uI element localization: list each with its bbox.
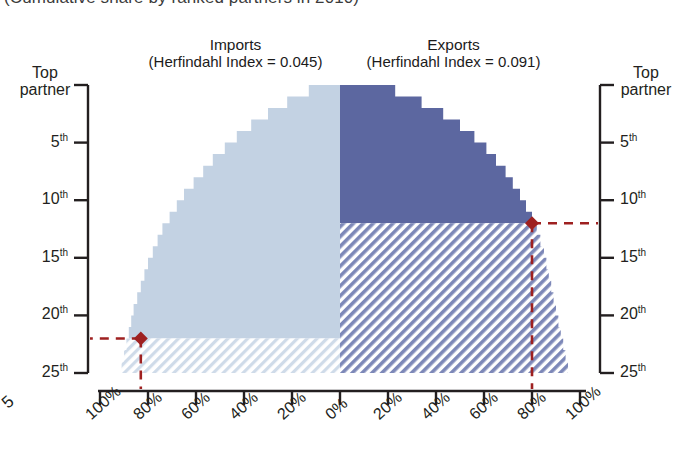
y-tick-left-5: 5th [10, 132, 68, 151]
y-tick-right-5: 5th [620, 132, 678, 151]
y-tick-right-10: 10th [620, 189, 678, 208]
y-tick-left-10: 10th [10, 189, 68, 208]
stepped-area-series [122, 85, 568, 373]
y-tick-left-15: 15th [10, 247, 68, 266]
y-tick-left-25: 25th [10, 362, 68, 381]
y-tick-right-25: 25th [620, 362, 678, 381]
y-tick-right-15: 15th [620, 247, 678, 266]
y-tick-left-20: 20th [10, 304, 68, 323]
y-tick-right-20: 20th [620, 304, 678, 323]
